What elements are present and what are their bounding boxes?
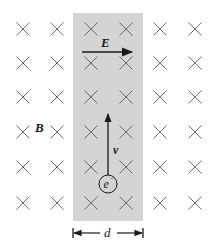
width-label: d bbox=[104, 225, 111, 240]
field-cross-icon bbox=[189, 161, 202, 174]
velocity-label: v bbox=[113, 143, 119, 157]
field-cross-icon bbox=[154, 91, 167, 104]
field-cross-icon bbox=[189, 126, 202, 139]
electron-charge-label: − bbox=[110, 175, 114, 183]
field-cross-icon bbox=[189, 197, 202, 210]
field-cross-icon bbox=[154, 161, 167, 174]
field-cross-icon bbox=[51, 91, 64, 104]
field-cross-icon bbox=[189, 57, 202, 70]
field-cross-icon bbox=[154, 23, 167, 36]
field-cross-icon bbox=[51, 161, 64, 174]
field-cross-icon bbox=[17, 57, 30, 70]
field-cross-icon bbox=[189, 23, 202, 36]
field-cross-icon bbox=[17, 126, 30, 139]
crossed-fields-diagram: E B v e − d bbox=[0, 0, 219, 250]
field-cross-icon bbox=[17, 23, 30, 36]
electron: e − bbox=[99, 175, 117, 193]
field-cross-icon bbox=[154, 197, 167, 210]
electron-label: e bbox=[104, 177, 110, 191]
field-cross-icon bbox=[17, 161, 30, 174]
field-cross-icon bbox=[51, 126, 64, 139]
field-cross-icon bbox=[17, 197, 30, 210]
field-cross-icon bbox=[154, 126, 167, 139]
field-cross-icon bbox=[51, 23, 64, 36]
magnetic-field-label: B bbox=[34, 120, 44, 135]
field-cross-icon bbox=[51, 197, 64, 210]
width-dimension: d bbox=[73, 225, 143, 240]
field-cross-icon bbox=[17, 91, 30, 104]
electric-field-label: E bbox=[100, 35, 110, 50]
field-cross-icon bbox=[51, 57, 64, 70]
field-cross-icon bbox=[189, 91, 202, 104]
field-cross-icon bbox=[154, 57, 167, 70]
